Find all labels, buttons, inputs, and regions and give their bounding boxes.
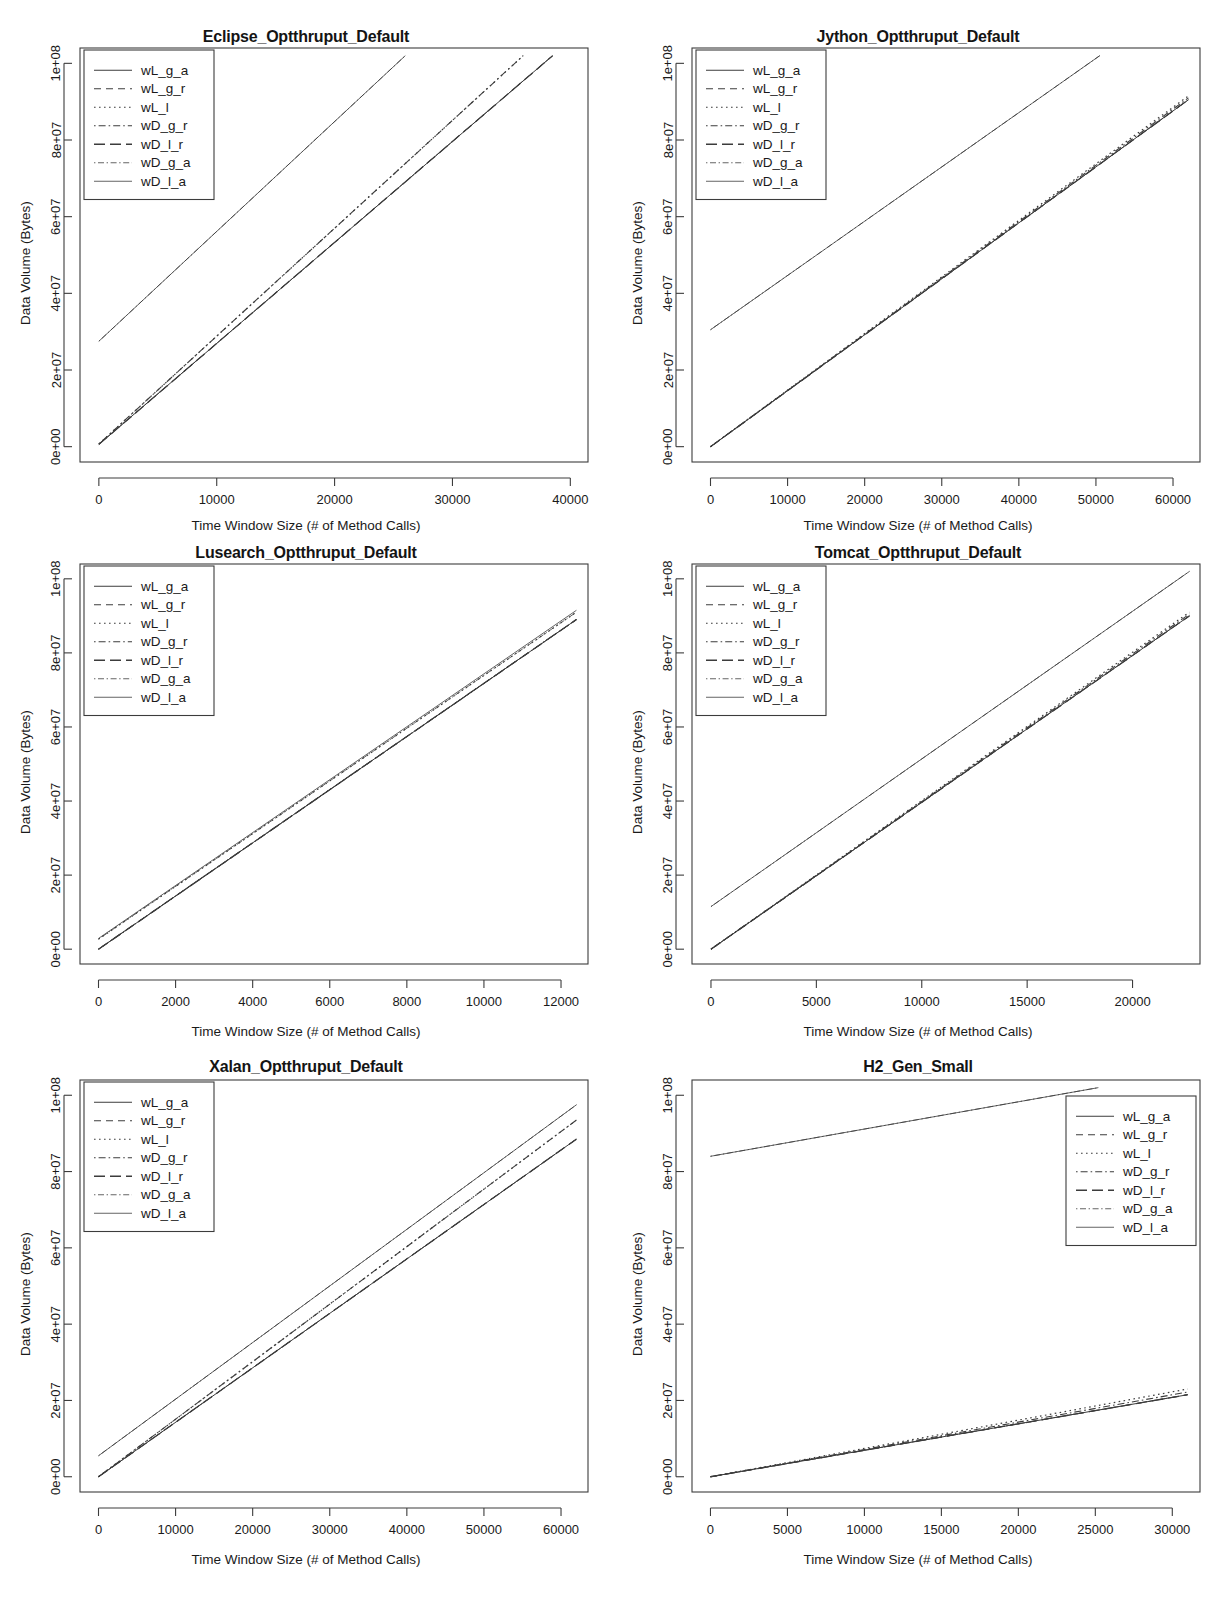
x-tick-label: 10000 (770, 492, 806, 507)
legend-label-wD_g_a: wD_g_a (1122, 1201, 1173, 1216)
x-tick-label: 0 (707, 1522, 714, 1537)
x-tick-label: 60000 (1155, 492, 1191, 507)
legend-label-wL_g_r: wL_g_r (752, 597, 798, 612)
y-tick-label: 0e+00 (661, 931, 676, 968)
chart-cell-5: H2_Gen_SmallTime Window Size (# of Metho… (612, 1040, 1224, 1604)
x-tick-label: 10000 (904, 994, 940, 1009)
y-tick-label: 6e+07 (661, 709, 676, 746)
legend: wL_g_awL_g_rwL_lwD_g_rwD_l_rwD_g_awD_l_a (84, 1082, 214, 1232)
x-tick-label: 20000 (317, 492, 353, 507)
legend: wL_g_awL_g_rwL_lwD_g_rwD_l_rwD_g_awD_l_a (1066, 1096, 1196, 1246)
legend-label-wD_l_a: wD_l_a (140, 174, 187, 189)
series-line-wD_l_a (710, 1088, 1098, 1157)
y-tick-label: 0e+00 (661, 1458, 676, 1495)
y-tick-label: 4e+07 (49, 275, 64, 312)
x-tick-label: 20000 (1000, 1522, 1036, 1537)
plot-svg: 050001000015000200000e+002e+074e+076e+07… (612, 534, 1224, 1040)
x-tick-label: 40000 (389, 1522, 425, 1537)
legend-label-wD_l_a: wD_l_a (140, 690, 187, 705)
legend-label-wD_g_r: wD_g_r (1122, 1164, 1170, 1179)
x-tick-label: 0 (95, 492, 102, 507)
legend: wL_g_awL_g_rwL_lwD_g_rwD_l_rwD_g_awD_l_a (84, 50, 214, 200)
legend-label-wL_g_a: wL_g_a (752, 63, 801, 78)
legend-label-wL_g_a: wL_g_a (140, 579, 189, 594)
y-tick-label: 6e+07 (661, 198, 676, 235)
legend-label-wD_l_r: wD_l_r (1122, 1183, 1166, 1198)
x-tick-label: 0 (707, 492, 714, 507)
y-tick-label: 6e+07 (49, 198, 64, 235)
legend-label-wL_g_a: wL_g_a (140, 1095, 189, 1110)
chart-cell-3: Tomcat_Optthruput_DefaultTime Window Siz… (612, 534, 1224, 1040)
legend-label-wL_g_a: wL_g_a (1122, 1109, 1171, 1124)
legend: wL_g_awL_g_rwL_lwD_g_rwD_l_rwD_g_awD_l_a (84, 566, 214, 716)
x-tick-label: 10000 (846, 1522, 882, 1537)
legend-label-wL_g_r: wL_g_r (1122, 1127, 1168, 1142)
y-tick-label: 8e+07 (661, 635, 676, 672)
y-tick-label: 8e+07 (49, 1153, 64, 1190)
legend-label-wD_g_a: wD_g_a (140, 671, 191, 686)
y-tick-label: 0e+00 (49, 1458, 64, 1495)
legend-label-wL_l: wL_l (1122, 1146, 1151, 1161)
legend-label-wD_l_a: wD_l_a (752, 690, 799, 705)
y-tick-label: 4e+07 (49, 1306, 64, 1343)
x-tick-label: 4000 (238, 994, 267, 1009)
legend-label-wD_l_r: wD_l_r (752, 137, 796, 152)
legend-label-wL_l: wL_l (752, 100, 781, 115)
legend: wL_g_awL_g_rwL_lwD_g_rwD_l_rwD_g_awD_l_a (696, 566, 826, 716)
legend: wL_g_awL_g_rwL_lwD_g_rwD_l_rwD_g_awD_l_a (696, 50, 826, 200)
x-tick-label: 0 (95, 1522, 102, 1537)
y-tick-label: 2e+07 (49, 352, 64, 389)
y-tick-label: 4e+07 (661, 275, 676, 312)
legend-label-wD_l_r: wD_l_r (752, 653, 796, 668)
legend-label-wD_g_r: wD_g_r (752, 634, 800, 649)
x-tick-label: 10000 (466, 994, 502, 1009)
x-tick-label: 50000 (466, 1522, 502, 1537)
chart-grid: Eclipse_Optthruput_DefaultTime Window Si… (0, 0, 1224, 1604)
chart-panel-h2: H2_Gen_SmallTime Window Size (# of Metho… (612, 1040, 1224, 1604)
y-tick-label: 8e+07 (49, 635, 64, 672)
legend-label-wD_l_a: wD_l_a (1122, 1220, 1169, 1235)
legend-label-wD_l_a: wD_l_a (752, 174, 799, 189)
x-tick-label: 6000 (315, 994, 344, 1009)
y-tick-label: 6e+07 (49, 1230, 64, 1267)
chart-cell-0: Eclipse_Optthruput_DefaultTime Window Si… (0, 0, 612, 534)
plot-svg: 0200040006000800010000120000e+002e+074e+… (0, 534, 612, 1040)
legend-label-wD_g_r: wD_g_r (140, 634, 188, 649)
x-tick-label: 10000 (158, 1522, 194, 1537)
legend-label-wD_g_a: wD_g_a (752, 671, 803, 686)
series-line-wL_l (710, 1389, 1187, 1477)
chart-panel-tomcat: Tomcat_Optthruput_DefaultTime Window Siz… (612, 534, 1224, 1040)
legend-label-wL_g_a: wL_g_a (752, 579, 801, 594)
x-tick-label: 40000 (1001, 492, 1037, 507)
x-tick-label: 40000 (552, 492, 588, 507)
x-tick-label: 5000 (802, 994, 831, 1009)
chart-cell-2: Lusearch_Optthruput_DefaultTime Window S… (0, 534, 612, 1040)
x-tick-label: 20000 (847, 492, 883, 507)
y-tick-label: 8e+07 (661, 1153, 676, 1190)
y-tick-label: 1e+08 (49, 1077, 64, 1114)
plot-svg: 01000020000300004000050000600000e+002e+0… (612, 0, 1224, 534)
legend-label-wD_g_r: wD_g_r (140, 118, 188, 133)
x-tick-label: 30000 (924, 492, 960, 507)
x-tick-label: 0 (707, 994, 714, 1009)
y-tick-label: 8e+07 (661, 122, 676, 159)
y-tick-label: 0e+00 (49, 931, 64, 968)
y-tick-label: 1e+08 (661, 561, 676, 598)
y-tick-label: 2e+07 (661, 1382, 676, 1419)
y-tick-label: 6e+07 (49, 709, 64, 746)
y-tick-label: 2e+07 (661, 352, 676, 389)
legend-label-wD_g_r: wD_g_r (752, 118, 800, 133)
legend-label-wD_l_r: wD_l_r (140, 653, 184, 668)
y-tick-label: 1e+08 (48, 45, 63, 82)
legend-label-wD_g_a: wD_g_a (752, 155, 803, 170)
x-tick-label: 50000 (1078, 492, 1114, 507)
y-tick-label: 1e+08 (661, 45, 676, 82)
legend-label-wD_l_r: wD_l_r (140, 137, 184, 152)
chart-cell-4: Xalan_Optthruput_DefaultTime Window Size… (0, 1040, 612, 1604)
legend-label-wD_l_a: wD_l_a (140, 1206, 187, 1221)
plot-svg: 0500010000150002000025000300000e+002e+07… (612, 1040, 1224, 1592)
chart-panel-eclipse: Eclipse_Optthruput_DefaultTime Window Si… (0, 0, 612, 534)
x-tick-label: 60000 (543, 1522, 579, 1537)
y-tick-label: 6e+07 (661, 1230, 676, 1267)
legend-label-wL_g_r: wL_g_r (752, 81, 798, 96)
